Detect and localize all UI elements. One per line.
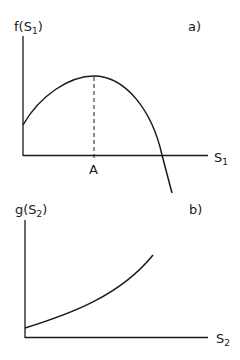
panel-b-tag: b) — [189, 202, 202, 217]
panel-a-x-label: S1 — [214, 150, 228, 167]
panel-a: f(S1) a) S1 A — [14, 19, 228, 193]
panel-b-y-label: g(S2) — [15, 202, 47, 219]
panel-b-x-label: S2 — [216, 331, 230, 348]
panel-a-tag: a) — [188, 19, 201, 34]
panel-a-y-label: f(S1) — [14, 19, 43, 36]
panel-a-marker-label: A — [89, 162, 98, 177]
diagram-canvas: f(S1) a) S1 A g(S2) b) S2 — [0, 0, 240, 360]
panel-b-curve — [25, 255, 153, 328]
panel-b: g(S2) b) S2 — [15, 202, 230, 348]
